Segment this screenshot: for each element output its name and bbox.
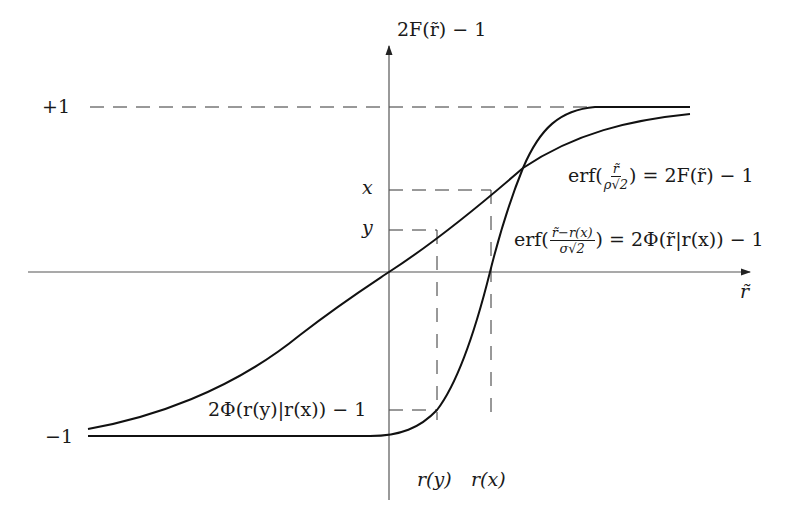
x-level-label: x <box>362 178 373 197</box>
wide-curve-label: erf(r̃ρ√2) = 2F(r̃) − 1 <box>568 162 754 191</box>
guide-lines <box>90 107 690 420</box>
r-y-label: r(y) <box>417 470 452 489</box>
plot-canvas <box>0 0 801 527</box>
y-level-label: y <box>362 218 373 237</box>
phi-annotation-label: 2Φ(r(y)|r(x)) − 1 <box>208 400 366 419</box>
y-axis-label: 2F(r̃) − 1 <box>397 20 486 39</box>
x-axis-label: r̃ <box>740 282 749 301</box>
steep-curve-label: erf(r̃−r(x)σ√2) = 2Φ(r̃|r(x)) − 1 <box>514 226 764 255</box>
plus-one-label: +1 <box>42 97 70 116</box>
minus-one-label: −1 <box>45 427 73 446</box>
erf-mapping-diagram: 2F(r̃) − 1 r̃ +1 −1 x y r(y) r(x) erf(r̃… <box>0 0 801 527</box>
r-x-label: r(x) <box>471 470 506 489</box>
